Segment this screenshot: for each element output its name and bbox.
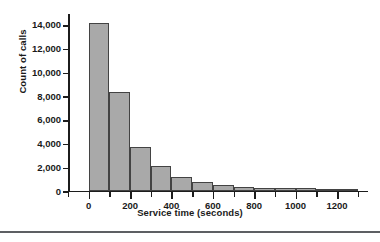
x-axis-tick	[254, 192, 256, 199]
y-axis-tick-label: 4,000	[37, 138, 61, 149]
histogram-bar	[192, 182, 213, 190]
x-axis-tick	[109, 192, 110, 197]
y-axis-tick-label: 14,000	[32, 19, 61, 30]
x-axis-tick	[316, 192, 317, 197]
histogram-bar	[213, 185, 234, 191]
histogram-bar	[275, 188, 296, 191]
x-axis-line	[68, 191, 368, 193]
x-axis-title: Service time (seconds)	[0, 207, 380, 218]
plot-area: 02,0004,0006,0008,00010,00012,00014,000 …	[68, 14, 368, 192]
y-axis-tick-label: 0	[56, 186, 61, 197]
y-axis-tick	[63, 120, 68, 121]
histogram-bar	[316, 189, 337, 191]
y-axis-tick-label: 2,000	[37, 162, 61, 173]
y-axis-tick-label: 8,000	[37, 91, 61, 102]
histogram-bar	[151, 166, 172, 190]
histogram-bar	[296, 188, 317, 190]
y-axis-tick	[63, 144, 68, 145]
x-axis-tick	[151, 192, 152, 197]
histogram-bar	[254, 188, 275, 191]
histogram-bar	[89, 23, 110, 190]
x-axis-tick	[275, 192, 276, 197]
y-axis-tick	[63, 96, 68, 97]
x-axis-tick	[130, 192, 132, 199]
x-axis-tick	[68, 192, 69, 197]
x-axis-tick	[171, 192, 173, 199]
y-axis-line	[68, 14, 70, 192]
x-axis-tick	[234, 192, 235, 197]
y-axis-tick-label: 10,000	[32, 67, 61, 78]
y-axis-tick	[63, 73, 68, 74]
y-axis-title: Count of calls	[17, 2, 28, 122]
histogram-bar	[234, 187, 255, 191]
footer-band	[0, 233, 380, 242]
histogram-bar	[130, 147, 151, 190]
y-axis-tick	[63, 168, 68, 169]
x-axis-tick	[337, 192, 339, 199]
y-axis-tick-label: 6,000	[37, 114, 61, 125]
x-axis-tick	[89, 192, 91, 199]
y-axis-tick	[63, 49, 68, 50]
x-axis-tick	[296, 192, 298, 199]
histogram-bar	[171, 177, 192, 191]
histogram-figure: Count of calls 02,0004,0006,0008,00010,0…	[0, 0, 380, 242]
y-axis-tick	[63, 25, 68, 26]
histogram-bar	[337, 189, 358, 191]
histogram-bar	[109, 92, 130, 190]
x-axis-tick	[358, 192, 359, 197]
y-axis-tick-label: 12,000	[32, 43, 61, 54]
x-axis-tick	[213, 192, 215, 199]
x-axis-tick	[192, 192, 193, 197]
